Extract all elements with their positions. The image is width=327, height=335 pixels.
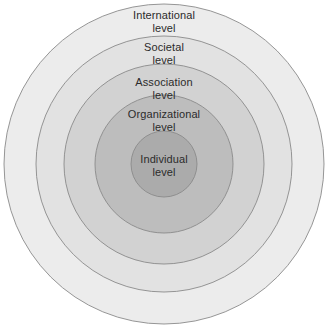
ring-label-association: Association level	[135, 76, 192, 102]
ring-label-individual-line2: level	[140, 166, 187, 179]
ring-label-societal-line2: level	[144, 54, 184, 67]
ring-label-international-line1: International	[133, 9, 195, 22]
ring-label-organizational-line2: level	[128, 121, 200, 134]
ring-label-individual-line1: Individual	[140, 153, 187, 166]
ring-label-societal: Societal level	[144, 41, 184, 67]
ring-label-organizational-line1: Organizational	[128, 108, 200, 121]
concentric-levels-diagram: International level Societal level Assoc…	[0, 0, 327, 335]
ring-label-international: International level	[133, 9, 195, 35]
ring-label-organizational: Organizational level	[128, 108, 200, 134]
ring-label-association-line1: Association	[135, 76, 192, 89]
ring-label-societal-line1: Societal	[144, 41, 184, 54]
ring-label-international-line2: level	[133, 22, 195, 35]
ring-label-individual: Individual level	[140, 153, 187, 179]
ring-label-association-line2: level	[135, 89, 192, 102]
